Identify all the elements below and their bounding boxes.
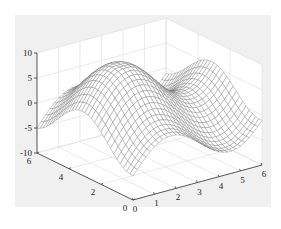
svg-text:2: 2 (91, 187, 96, 197)
svg-text:5: 5 (240, 175, 245, 185)
svg-text:2: 2 (176, 192, 181, 202)
surface-plot-figure: -10-50510 0246 0123456 (0, 0, 281, 229)
svg-text:3: 3 (197, 187, 202, 197)
svg-text:5: 5 (28, 73, 33, 83)
svg-text:0: 0 (28, 98, 33, 108)
svg-text:0: 0 (123, 203, 128, 213)
svg-text:4: 4 (219, 181, 224, 191)
svg-text:-5: -5 (25, 123, 33, 133)
svg-text:6: 6 (262, 169, 267, 179)
svg-text:1: 1 (154, 198, 159, 208)
svg-text:0: 0 (133, 204, 138, 214)
svg-text:4: 4 (59, 172, 64, 182)
svg-text:6: 6 (27, 156, 32, 166)
svg-text:10: 10 (23, 48, 33, 58)
